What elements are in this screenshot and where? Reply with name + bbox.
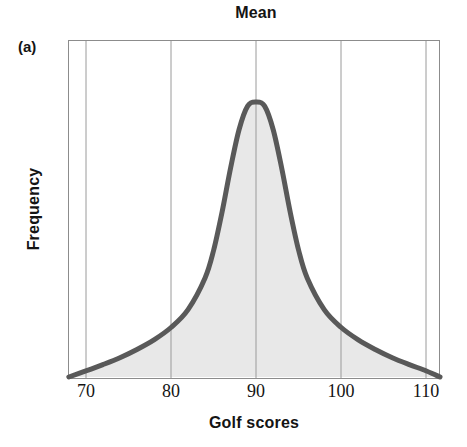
x-gridlines — [86, 41, 426, 378]
xtick-label-80: 80 — [141, 381, 201, 402]
xtick-label-70: 70 — [56, 381, 116, 402]
xtick-label-110: 110 — [396, 381, 456, 402]
xtick-label-100: 100 — [311, 381, 371, 402]
distribution-plot — [0, 0, 467, 447]
distribution-fill — [69, 102, 440, 377]
xtick-label-90: 90 — [226, 381, 286, 402]
figure-panel-a: Mean (a) Frequency Golf scores 70 80 90 … — [0, 0, 467, 447]
